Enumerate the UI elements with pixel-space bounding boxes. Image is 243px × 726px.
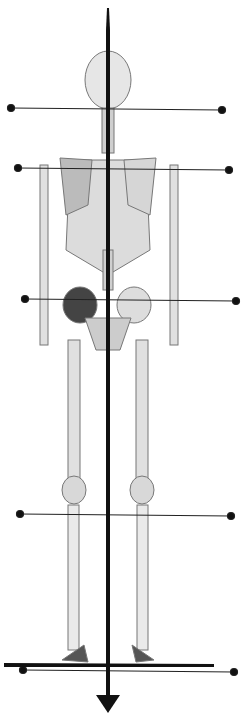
endpoint-dot — [17, 511, 24, 518]
endpoint-dot — [226, 167, 233, 174]
endpoint-dot — [8, 105, 15, 112]
arrow-down-icon — [96, 695, 120, 713]
endpoint-dot — [219, 107, 226, 114]
endpoint-dot — [228, 513, 235, 520]
endpoint-dot — [20, 667, 27, 674]
reference-line-knees — [17, 511, 235, 520]
endpoint-dot — [233, 298, 240, 305]
posture-diagram — [0, 0, 243, 726]
reference-line-feet — [20, 667, 238, 676]
endpoint-dot — [22, 296, 29, 303]
endpoint-dot — [231, 669, 238, 676]
endpoint-dot — [15, 165, 22, 172]
plumb-line — [96, 8, 120, 713]
